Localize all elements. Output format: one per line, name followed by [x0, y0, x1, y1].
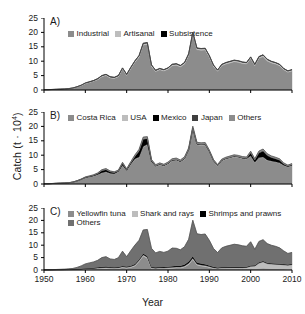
plot-area-c [0, 208, 305, 280]
figure-root: Catch (t · 104) A)IndustrialArtisanalSub… [0, 0, 305, 314]
x-axis-tick-label: 1960 [68, 274, 102, 284]
plot-wrap [0, 18, 305, 100]
plot-wrap [0, 112, 305, 194]
x-axis-tick-label: 1990 [192, 274, 226, 284]
x-axis-tick-label: 2000 [234, 274, 268, 284]
x-axis-tick-label: 1970 [110, 274, 144, 284]
x-axis-label: Year [0, 296, 305, 308]
x-axis-tick-label: 1950 [27, 274, 61, 284]
area-series [44, 129, 292, 184]
x-axis-tick-label: 1980 [151, 274, 185, 284]
plot-area-a [0, 18, 305, 100]
x-axis-tick-label: 2010 [275, 274, 305, 284]
plot-area-b [0, 112, 305, 194]
area-series [44, 220, 292, 270]
area-series [44, 34, 292, 90]
plot-wrap [0, 208, 305, 280]
